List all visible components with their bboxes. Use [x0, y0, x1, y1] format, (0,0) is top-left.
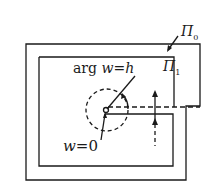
- ray-arg-h: [107, 76, 135, 109]
- label-pi0: Π0: [181, 23, 198, 42]
- label-pi1: Π1: [163, 58, 180, 77]
- label-w-0: w=0: [63, 137, 98, 155]
- label-arg-w-h: arg w=h: [73, 60, 134, 76]
- arrowhead-solid: [152, 90, 158, 97]
- arrowhead-dashed: [152, 118, 158, 125]
